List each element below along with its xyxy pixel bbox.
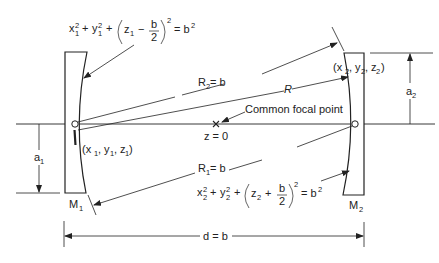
- svg-text:= b: = b: [301, 187, 317, 199]
- svg-text:2: 2: [151, 31, 157, 43]
- mirror-m2-vertex-point: [352, 121, 358, 127]
- svg-text:2: 2: [191, 21, 195, 30]
- svg-text:1: 1: [75, 29, 79, 38]
- focal-point-label: Common focal point: [245, 103, 343, 115]
- mirror-m2-arc-extension: [332, 27, 344, 51]
- mirror-m1-label: M 1: [69, 198, 83, 213]
- svg-text:b: b: [279, 182, 285, 194]
- focal-point-pointer: [222, 112, 245, 122]
- svg-text:−: −: [138, 23, 144, 35]
- z0-label: z = 0: [204, 130, 228, 142]
- r-label: R: [284, 83, 292, 95]
- r2-label: R 2 = b: [198, 76, 226, 91]
- equation1-pointer: [84, 45, 134, 78]
- a1-label: a 1: [34, 151, 44, 166]
- svg-text:1: 1: [98, 29, 102, 38]
- svg-text:2: 2: [294, 180, 298, 189]
- svg-text:, y: , y: [349, 61, 361, 73]
- equation-mirror2: x 2 2 + y 2 2 + z 2 + b 2 2 = b 2: [197, 180, 322, 208]
- svg-text:= b: = b: [210, 76, 226, 88]
- equation-mirror1: x 2 1 + y 2 1 + z 1 − b 2 2 = b 2: [69, 16, 195, 44]
- svg-text:2: 2: [359, 205, 363, 214]
- r1-line-b: [229, 160, 262, 170]
- svg-text:+: +: [234, 186, 240, 198]
- svg-text:2: 2: [376, 67, 380, 76]
- d-label: d = b: [203, 230, 228, 242]
- svg-text:(x: (x: [82, 143, 92, 155]
- svg-text:z: z: [124, 23, 130, 35]
- svg-text:z: z: [251, 187, 257, 199]
- svg-text:2: 2: [279, 195, 285, 207]
- r2-line: [78, 97, 175, 122]
- svg-text:+: +: [82, 22, 88, 34]
- svg-text:2: 2: [318, 185, 322, 194]
- svg-text:M: M: [69, 198, 78, 210]
- svg-text:M: M: [349, 199, 358, 211]
- confocal-resonator-diagram: x 2 1 + y 2 1 + z 1 − b 2 2 = b 2 x 2 2 …: [0, 0, 439, 263]
- svg-text:R: R: [198, 76, 206, 88]
- svg-text:): ): [129, 143, 133, 155]
- svg-text:2: 2: [257, 193, 261, 202]
- svg-text:b: b: [151, 18, 157, 30]
- svg-text:2: 2: [167, 16, 171, 25]
- r1-label: R 1 = b: [198, 162, 226, 177]
- svg-text:2: 2: [412, 91, 416, 100]
- r-line-b: [292, 77, 348, 89]
- svg-text:= b: = b: [210, 162, 226, 174]
- svg-text:+: +: [265, 187, 271, 199]
- svg-text:2: 2: [203, 193, 207, 202]
- svg-text:, y: , y: [98, 143, 110, 155]
- mirror-m2-label: M 2: [349, 199, 363, 214]
- svg-text:+: +: [106, 22, 112, 34]
- svg-text:, z: , z: [114, 143, 126, 155]
- svg-text:= b: = b: [174, 23, 190, 35]
- r1-line: [297, 126, 352, 147]
- svg-text:R: R: [198, 162, 206, 174]
- svg-text:2: 2: [226, 193, 230, 202]
- svg-text:, z: , z: [365, 61, 377, 73]
- r1-line-c: [94, 173, 195, 205]
- equation2-pointer: [321, 171, 349, 181]
- a2-label: a 2: [406, 85, 416, 100]
- svg-text:): ): [381, 61, 385, 73]
- svg-text:1: 1: [130, 29, 134, 38]
- svg-text:1: 1: [79, 204, 83, 213]
- r2-line-c: [262, 43, 337, 74]
- svg-text:(x: (x: [333, 61, 343, 73]
- svg-text:1: 1: [40, 157, 44, 166]
- mirror-m1-vertex-point: [72, 121, 78, 127]
- mirror-m1-thick-segment: [75, 130, 76, 145]
- svg-text:+: +: [210, 186, 216, 198]
- point1-label: (x 1 , y 1 , z 1 ): [82, 143, 133, 158]
